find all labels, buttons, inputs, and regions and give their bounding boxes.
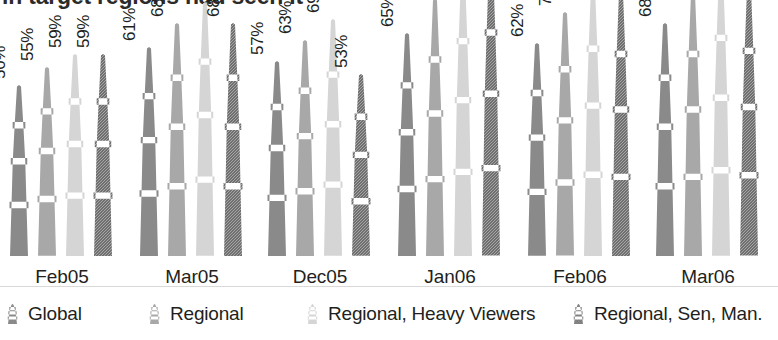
bar-value-label: 63% [276, 1, 296, 34]
bar-group: 61%68%74% 68%Mar05 [136, 0, 248, 288]
bar[interactable]: 62% [524, 43, 550, 256]
bar-shape [62, 54, 88, 256]
bar[interactable]: 82% [450, 0, 476, 256]
bar[interactable]: 79% [580, 0, 606, 256]
bar-shape [450, 0, 476, 256]
bar-shape [524, 43, 550, 256]
bar-value-label: 61% [120, 8, 140, 41]
bar[interactable]: 68% [164, 23, 190, 256]
bar-shape [192, 2, 218, 256]
bar-group: 68%77%83% 78%Mar06 [652, 0, 764, 288]
bar-shape [394, 33, 420, 256]
bar-shape [220, 23, 246, 256]
bar-value-label: 71% [536, 0, 556, 6]
bar-shape [422, 0, 448, 256]
legend-label: Regional, Sen, Man. [594, 303, 762, 325]
bar-shape [580, 0, 606, 256]
bar[interactable]: 77% [608, 0, 634, 256]
bar-shape [652, 23, 678, 256]
bar[interactable]: 50% [6, 85, 32, 257]
bar-shape [736, 0, 762, 256]
legend-swatch-icon [148, 294, 161, 334]
bar[interactable]: 57% [264, 61, 290, 257]
bar[interactable]: 78% [736, 0, 762, 256]
bar-group: 50%55%59% 59%Feb05 [6, 0, 118, 288]
x-axis-tick-label: Mar05 [136, 266, 248, 288]
legend-swatch-icon [306, 294, 319, 334]
bar[interactable]: 68% [220, 23, 246, 256]
legend-item[interactable]: Regional, Sen, Man. [572, 292, 762, 336]
bar[interactable]: 83% [708, 0, 734, 256]
bar[interactable]: 71% [552, 12, 578, 256]
bar-shape [478, 0, 504, 256]
bar-value-label: 68% [148, 0, 168, 17]
bar[interactable]: 68% [652, 23, 678, 256]
legend-label: Regional, Heavy Viewers [328, 303, 535, 325]
legend-item[interactable]: Regional [148, 292, 243, 336]
bar[interactable]: 59% [90, 54, 116, 256]
bar-value-label: 57% [248, 21, 268, 54]
bar-shape [136, 47, 162, 256]
bar-shape [608, 0, 634, 256]
bar-value-label: 55% [18, 28, 38, 61]
chart-legend: GlobalRegionalRegional, Heavy Viewers Re… [0, 292, 778, 340]
bar-shape [708, 0, 734, 256]
bar-shape [348, 74, 374, 256]
legend-item[interactable]: Global [6, 292, 82, 336]
bar-group: 62%71%79% 77%Feb06 [524, 0, 636, 288]
bar-value-label: 68% [636, 0, 656, 17]
bar-value-label: 50% [0, 45, 10, 78]
bar-value-label: 53% [332, 35, 352, 68]
x-axis-tick-label: Mar06 [652, 266, 764, 288]
bar[interactable]: 65% [394, 33, 420, 256]
bar[interactable]: 59% [62, 54, 88, 256]
bar-value-label: 65% [378, 0, 398, 27]
bar-value-label: 68% [204, 0, 224, 17]
bar[interactable]: 55% [34, 67, 60, 256]
x-axis-tick-label: Dec05 [264, 266, 376, 288]
bar-group: 65%75%82% 85%Jan06 [394, 0, 506, 288]
bar-value-label: 59% [74, 15, 94, 48]
legend-swatch-icon [572, 294, 585, 334]
bar-shape [34, 67, 60, 256]
bar[interactable]: 77% [680, 0, 706, 256]
bar-value-label: 59% [46, 15, 66, 48]
bar[interactable]: 75% [422, 0, 448, 256]
chart-plot-area: 50%55%59% 59%Feb0561%68%74% 68%Mar0557%6… [0, 0, 778, 288]
bar[interactable]: 63% [292, 40, 318, 256]
bar-group: 57%63%69% 53%Dec05 [264, 0, 376, 288]
legend-label: Global [28, 303, 82, 325]
legend-item[interactable]: Regional, Heavy Viewers [306, 292, 535, 336]
bar-shape [264, 61, 290, 257]
x-axis-tick-label: Feb06 [524, 266, 636, 288]
bar-shape [90, 54, 116, 256]
bar-value-label: 62% [508, 4, 528, 37]
bar[interactable]: 74% [192, 2, 218, 256]
bar-shape [680, 0, 706, 256]
legend-swatch-icon [6, 294, 19, 334]
bar-shape [292, 40, 318, 256]
x-axis-tick-label: Feb05 [6, 266, 118, 288]
bar-shape [164, 23, 190, 256]
bar[interactable]: 85% [478, 0, 504, 256]
bar[interactable]: 53% [348, 74, 374, 256]
bar-shape [6, 85, 32, 257]
x-axis-tick-label: Jan06 [394, 266, 506, 288]
bar-value-label: 69% [304, 0, 324, 13]
bar-shape [552, 12, 578, 256]
legend-label: Regional [170, 303, 243, 325]
bar[interactable]: 61% [136, 47, 162, 256]
